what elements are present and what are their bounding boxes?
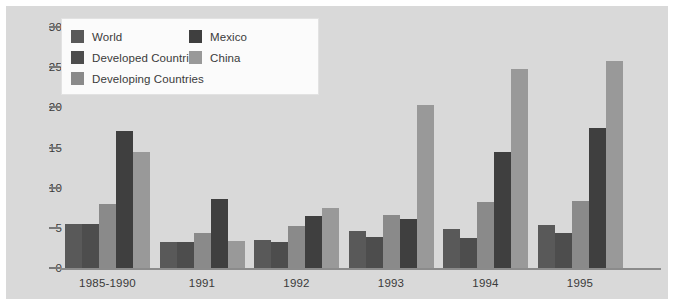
bar	[211, 199, 228, 268]
y-axis-tick-mark	[49, 227, 60, 229]
x-axis-label: 1994	[443, 275, 528, 291]
y-axis-tick-mark	[49, 26, 60, 28]
legend-swatch-icon	[189, 30, 202, 43]
bar	[606, 61, 623, 268]
bar	[383, 215, 400, 268]
legend-item-label: Mexico	[210, 31, 247, 43]
legend-item-label: Developing Countries	[92, 73, 204, 85]
bar	[322, 208, 339, 268]
bar	[133, 152, 150, 268]
bar	[460, 238, 477, 268]
bar	[538, 225, 555, 268]
legend-column-right: MexicoChina	[189, 26, 247, 68]
legend-swatch-icon	[71, 30, 84, 43]
bar	[305, 216, 322, 268]
bar	[99, 204, 116, 268]
bar	[65, 224, 82, 268]
chart-legend: WorldDeveloped CountriesDeveloping Count…	[61, 18, 319, 95]
bar-group	[349, 20, 434, 268]
bar	[477, 202, 494, 268]
legend-item-label: China	[210, 52, 241, 64]
y-axis-tick-mark	[49, 187, 60, 189]
x-axis-label: 1985-1990	[65, 275, 150, 291]
y-axis-tick-mark	[49, 106, 60, 108]
bar	[572, 201, 589, 268]
bar	[555, 233, 572, 268]
legend-item[interactable]: World	[71, 26, 204, 47]
bar	[443, 229, 460, 268]
legend-item-label: World	[92, 31, 122, 43]
legend-item[interactable]: Mexico	[189, 26, 247, 47]
bar	[194, 233, 211, 268]
x-axis-line	[60, 268, 661, 270]
bar	[589, 128, 606, 268]
x-axis-label: 1995	[538, 275, 623, 291]
x-axis-label: 1991	[160, 275, 245, 291]
bar	[271, 242, 288, 268]
bar	[254, 240, 271, 268]
bar	[417, 105, 434, 268]
bar	[366, 237, 383, 268]
y-axis-tick-mark	[49, 66, 60, 68]
legend-item[interactable]: China	[189, 47, 247, 68]
legend-swatch-icon	[71, 72, 84, 85]
legend-swatch-icon	[189, 51, 202, 64]
legend-item-label: Developed Countries	[92, 52, 201, 64]
bar	[82, 224, 99, 268]
x-axis-label: 1992	[254, 275, 339, 291]
bar	[177, 242, 194, 268]
bar-group	[443, 20, 528, 268]
bar	[511, 69, 528, 268]
bar	[228, 241, 245, 268]
legend-item[interactable]: Developing Countries	[71, 68, 204, 89]
bar-group	[538, 20, 623, 268]
bar	[288, 226, 305, 268]
bar	[494, 152, 511, 268]
legend-column-left: WorldDeveloped CountriesDeveloping Count…	[71, 26, 204, 89]
legend-item[interactable]: Developed Countries	[71, 47, 204, 68]
y-axis-tick-mark	[49, 267, 60, 269]
bar	[116, 131, 133, 268]
bar-chart: 051015202530 WorldDeveloped CountriesDev…	[0, 0, 674, 305]
bar	[160, 242, 177, 268]
x-axis-label: 1993	[349, 275, 434, 291]
bar	[400, 219, 417, 268]
legend-swatch-icon	[71, 51, 84, 64]
y-axis-tick-mark	[49, 147, 60, 149]
bar	[349, 231, 366, 268]
